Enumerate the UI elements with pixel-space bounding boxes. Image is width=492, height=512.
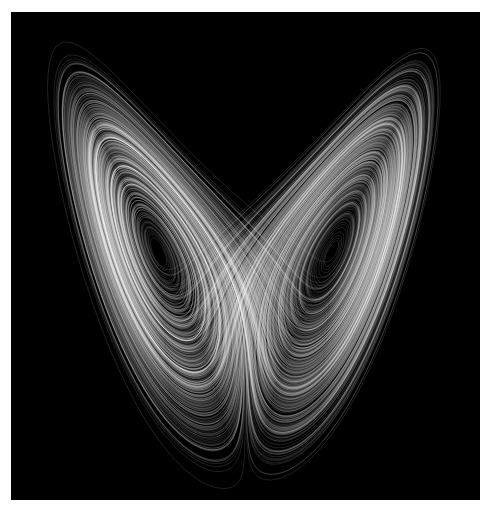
attractor-frame	[11, 12, 480, 500]
lorenz-attractor-plot	[11, 12, 480, 500]
